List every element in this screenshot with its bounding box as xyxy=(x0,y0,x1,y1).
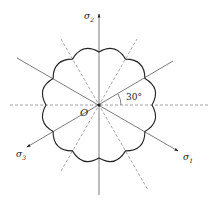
sigma3-label: σ3 xyxy=(16,150,26,161)
diagram-canvas xyxy=(0,0,220,204)
origin-point xyxy=(97,103,100,106)
angle-label: 30° xyxy=(126,93,142,102)
dashed-reference-lines xyxy=(10,39,210,190)
origin-label: O xyxy=(80,108,88,118)
sigma1-label: σ1 xyxy=(183,153,193,164)
angle-arc xyxy=(118,94,121,105)
yield-surface-diagram: σ2 σ1 σ3 30° O xyxy=(0,0,220,204)
sigma2-label: σ2 xyxy=(84,12,94,23)
